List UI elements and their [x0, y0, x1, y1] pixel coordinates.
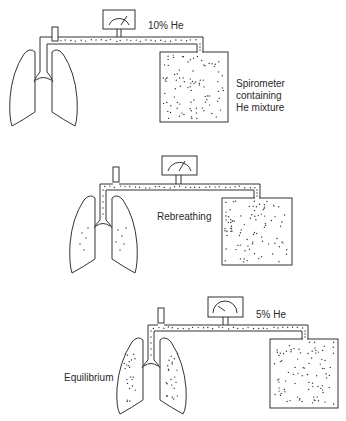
mouthpiece	[158, 308, 164, 323]
spirometer	[160, 52, 228, 122]
spirometer	[270, 339, 338, 408]
lungs	[10, 37, 78, 126]
helium-analyzer-gauge	[162, 156, 197, 175]
gauge-reading-equilibrium: 5% He	[256, 309, 286, 321]
panel-initial	[10, 10, 228, 126]
mouthpiece	[52, 27, 58, 41]
helium-particles-lungs	[124, 353, 179, 402]
helium-particles-lungs	[79, 227, 126, 250]
lungs	[70, 184, 138, 273]
spirometer-label-line-3: He mixture	[236, 102, 284, 114]
state-label-rebreathing: Rebreathing	[157, 211, 211, 223]
helium-analyzer-gauge	[208, 297, 243, 317]
gauge-reading-initial: 10% He	[148, 20, 184, 32]
helium-particles-tube	[60, 39, 200, 51]
panel-equilibrium	[117, 297, 338, 414]
mouthpiece	[113, 167, 119, 182]
state-label-equilibrium: Equilibrium	[64, 372, 113, 384]
helium-analyzer-gauge	[103, 10, 135, 29]
spirometer-label-line-1: Spirometer	[236, 78, 285, 90]
spirometer-label-line-2: containing	[236, 90, 282, 102]
